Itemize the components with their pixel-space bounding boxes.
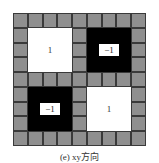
block-value: 1 <box>107 104 112 114</box>
grid-cell <box>87 13 102 28</box>
grid-cell <box>72 87 87 102</box>
grid-cell <box>28 72 43 87</box>
grid-cell <box>131 102 146 117</box>
grid-cell <box>72 28 87 43</box>
block-bottom-left: −1 <box>28 87 72 131</box>
grid-cell <box>57 13 72 28</box>
grid-cell <box>102 131 117 146</box>
grid-cell <box>57 72 72 87</box>
grid-cell <box>131 131 146 146</box>
block-value: 1 <box>48 45 53 55</box>
grid-cell <box>116 72 131 87</box>
block-value: −1 <box>99 44 119 56</box>
grid-cell <box>72 102 87 117</box>
grid-cell <box>43 13 58 28</box>
grid-cell <box>13 57 28 72</box>
grid-cell <box>13 13 28 28</box>
grid-cell <box>28 13 43 28</box>
grid-cell <box>28 131 43 146</box>
block-value: −1 <box>40 103 60 115</box>
grid-cell <box>57 131 72 146</box>
grid-cell <box>43 72 58 87</box>
grid-cell <box>87 131 102 146</box>
grid-cell <box>13 72 28 87</box>
grid-cell <box>13 28 28 43</box>
grid-cell <box>72 13 87 28</box>
grid-cell <box>131 13 146 28</box>
grid-cell <box>102 72 117 87</box>
grid-cell <box>102 13 117 28</box>
grid-cell <box>131 43 146 58</box>
grid-cell <box>131 87 146 102</box>
figure-caption: (e) xy方向 <box>0 150 159 163</box>
grid-cell <box>116 13 131 28</box>
grid-cell <box>13 102 28 117</box>
grid-cell <box>72 72 87 87</box>
grid-cell <box>131 57 146 72</box>
block-top-left: 1 <box>28 28 72 72</box>
grid-cell <box>72 43 87 58</box>
block-bottom-right: 1 <box>87 87 131 131</box>
grid-cell <box>131 116 146 131</box>
grid-cell <box>131 72 146 87</box>
grid-cell <box>13 116 28 131</box>
grid-cell <box>13 43 28 58</box>
grid-cell <box>72 131 87 146</box>
grid-cell <box>43 131 58 146</box>
grid-cell <box>72 57 87 72</box>
grid-cell <box>116 131 131 146</box>
block-top-right: −1 <box>87 28 131 72</box>
grid-cell <box>131 28 146 43</box>
grid-cell <box>13 87 28 102</box>
grid-cell <box>72 116 87 131</box>
grid-cell <box>87 72 102 87</box>
grid-cell <box>13 131 28 146</box>
